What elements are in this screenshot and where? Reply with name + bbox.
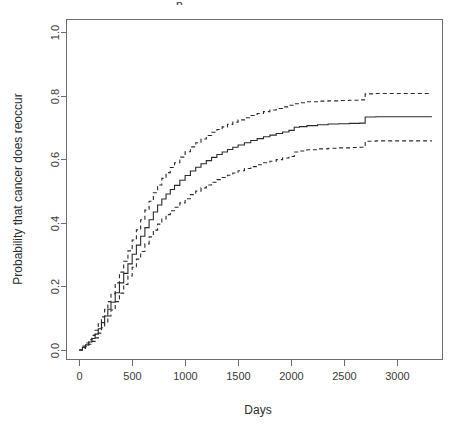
x-tick-label: 3000 bbox=[385, 370, 409, 382]
x-tick-label: 0 bbox=[76, 370, 82, 382]
plot-frame bbox=[67, 20, 443, 360]
y-tick-label: 0.6 bbox=[49, 152, 61, 167]
x-axis-tick-labels: 050010001500200025003000 bbox=[76, 370, 409, 382]
x-tick-label: 1000 bbox=[173, 370, 197, 382]
y-axis-ticks bbox=[61, 33, 67, 351]
y-tick-label: 0.4 bbox=[49, 216, 61, 231]
y-tick-label: 0.8 bbox=[49, 89, 61, 104]
survival-chart: p 050010001500200025003000 0.00.20.40.60… bbox=[0, 0, 456, 428]
x-tick-label: 500 bbox=[123, 370, 141, 382]
x-tick-label: 1500 bbox=[226, 370, 250, 382]
x-axis-ticks bbox=[80, 360, 398, 366]
curve-group bbox=[79, 94, 432, 350]
y-tick-label: 0.0 bbox=[49, 343, 61, 358]
y-tick-label: 0.2 bbox=[49, 279, 61, 294]
y-axis-title: Probability that cancer does reoccur bbox=[11, 93, 25, 284]
y-tick-label: 1.0 bbox=[49, 25, 61, 40]
x-axis-title: Days bbox=[244, 403, 271, 417]
x-tick-label: 2500 bbox=[332, 370, 356, 382]
confidence-band-curve bbox=[79, 94, 432, 350]
y-axis-tick-labels: 0.00.20.40.60.81.0 bbox=[49, 25, 61, 358]
survival-curve bbox=[79, 117, 432, 350]
x-tick-label: 2000 bbox=[279, 370, 303, 382]
plot-canvas: 050010001500200025003000 0.00.20.40.60.8… bbox=[0, 0, 456, 428]
